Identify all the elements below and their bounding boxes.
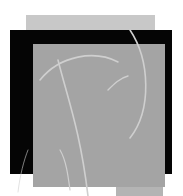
decorative-curves-icon bbox=[0, 0, 183, 196]
